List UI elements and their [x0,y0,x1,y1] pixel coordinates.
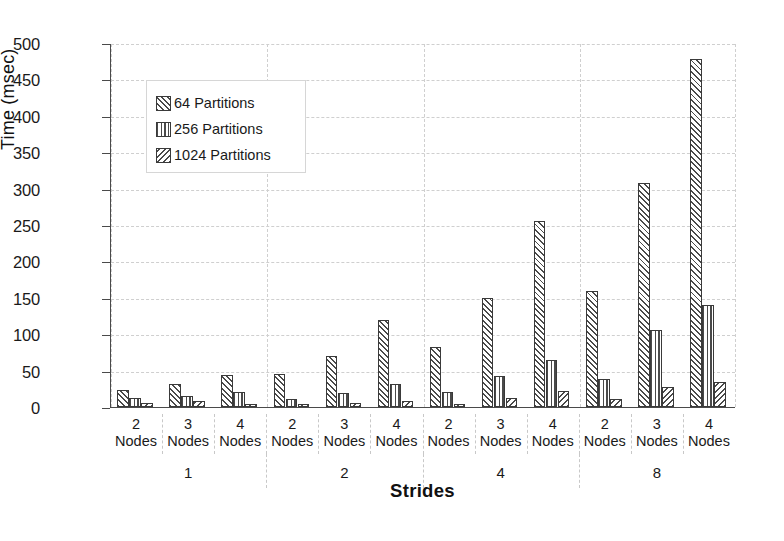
y-tick-label-250: 250 [0,217,40,236]
y-tick-label-150: 150 [0,289,40,308]
x-node-count: 4 [370,416,422,433]
legend-label-1024: 1024 Partitions [174,147,271,163]
x-node-word: Nodes [370,433,422,450]
x-stride-label-8: 8 [579,464,735,481]
x-node-label: 3Nodes [162,416,214,450]
y-tick-mark-300 [102,190,110,191]
legend-item-1024: 1024 Partitions [156,142,305,168]
y-tick-label-500: 500 [0,35,40,54]
bar [141,403,153,407]
x-node-count: 2 [266,416,318,433]
x-node-count: 4 [683,416,735,433]
bar [494,376,506,407]
y-tick-label-450: 450 [0,71,40,90]
y-tick-label-300: 300 [0,180,40,199]
x-node-word: Nodes [110,433,162,450]
x-stride-label-4: 4 [423,464,579,481]
x-node-word: Nodes [579,433,631,450]
node-slot-separator [423,414,424,454]
bar [169,384,181,407]
bar [245,404,257,407]
y-tick-mark-350 [102,153,110,154]
legend-label-64: 64 Partitions [174,95,255,111]
x-node-count: 3 [631,416,683,433]
y-tick-mark-0 [102,408,110,409]
y-tick-label-50: 50 [0,362,40,381]
bar [702,305,714,407]
node-slot-separator [527,414,528,454]
x-node-label: 4Nodes [527,416,579,450]
x-stride-label-1: 1 [110,464,266,481]
x-node-count: 2 [579,416,631,433]
y-tick-label-400: 400 [0,107,40,126]
stride-group-separator-below [579,454,580,488]
x-node-word: Nodes [214,433,266,450]
bar [326,356,338,407]
node-slot-separator [631,414,632,454]
node-slot-separator [318,414,319,454]
x-node-label: 4Nodes [214,416,266,450]
bar [586,291,598,407]
bar [662,387,674,407]
node-slot-separator [579,414,580,454]
x-node-word: Nodes [527,433,579,450]
stride-group-separator [424,44,425,407]
x-node-label: 3Nodes [475,416,527,450]
x-node-count: 2 [423,416,475,433]
bar [690,59,702,407]
y-tick-mark-50 [102,372,110,373]
stride-group-separator [111,44,112,407]
y-tick-mark-200 [102,262,110,263]
x-node-word: Nodes [683,433,735,450]
node-slot-separator [475,414,476,454]
x-node-count: 3 [318,416,370,433]
x-node-count: 2 [110,416,162,433]
stride-group-separator [580,44,581,407]
y-tick-label-200: 200 [0,253,40,272]
x-node-label: 2Nodes [579,416,631,450]
bar [221,375,233,407]
bar [546,360,558,407]
bar [558,391,570,407]
x-node-word: Nodes [475,433,527,450]
x-node-count: 3 [162,416,214,433]
bar [506,398,518,407]
bar [193,401,205,407]
bar [390,384,402,407]
x-node-count: 4 [214,416,266,433]
bar [298,404,310,407]
legend: 64 Partitions 256 Partitions 1024 Partit… [146,80,306,173]
bar [378,320,390,407]
legend-label-256: 256 Partitions [174,121,263,137]
bar [534,221,546,407]
x-node-word: Nodes [162,433,214,450]
node-slot-separator [683,414,684,454]
stride-group-separator [735,44,736,407]
x-node-label: 2Nodes [110,416,162,450]
x-node-count: 4 [527,416,579,433]
bar [482,298,494,407]
bar [233,392,245,407]
y-tick-mark-100 [102,335,110,336]
x-node-label: 3Nodes [631,416,683,450]
bar [350,403,362,407]
y-tick-label-350: 350 [0,144,40,163]
node-slot-separator [266,414,267,454]
y-tick-label-100: 100 [0,326,40,345]
bar [274,374,286,407]
x-node-word: Nodes [266,433,318,450]
y-tick-mark-150 [102,299,110,300]
x-node-label: 2Nodes [423,416,475,450]
bar [650,330,662,407]
bar [638,183,650,407]
x-stride-label-2: 2 [266,464,422,481]
legend-swatch-1024-partitions-icon [156,148,171,163]
y-tick-mark-450 [102,80,110,81]
node-slot-separator [214,414,215,454]
bar [129,398,141,407]
y-axis-title: Time (msec) [0,48,19,150]
x-node-label: 4Nodes [683,416,735,450]
bar [454,404,466,407]
node-slot-separator [370,414,371,454]
bar [338,393,350,407]
